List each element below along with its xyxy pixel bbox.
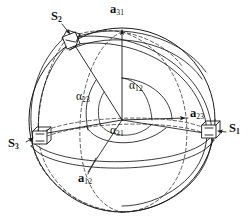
joint-s3-name: S: [8, 136, 15, 150]
angle-alpha23-subscript: 23: [82, 95, 90, 104]
joint-s3-subscript: 3: [15, 142, 19, 151]
angle-label-alpha23: α23: [76, 91, 90, 104]
angle-alpha31-subscript: 31: [116, 129, 124, 138]
joint-s2-name: S: [51, 9, 58, 23]
angle-label-alpha31: α31: [110, 125, 124, 138]
angle-label-alpha12: α12: [129, 80, 143, 93]
joint-label-s1: S1: [229, 122, 240, 136]
vector-a23-subscript: 23: [196, 112, 204, 121]
joint-s1-subscript: 1: [236, 127, 240, 136]
vector-label-a12: a12: [78, 172, 92, 186]
angle-alpha12-subscript: 12: [135, 84, 143, 93]
vector-a12-subscript: 12: [84, 177, 92, 186]
joint-label-s2: S2: [51, 10, 62, 24]
vector-a31-subscript: 31: [116, 8, 124, 17]
angle-arc-alpha31: [86, 124, 166, 143]
joint-s1-name: S: [229, 121, 236, 135]
spherical-mechanism-figure: S1 S2 S3 a12 a23 a31 α12 α23 α31: [0, 0, 249, 223]
radius-to-s1: [122, 120, 210, 134]
joint-label-s3: S3: [8, 137, 19, 151]
figure-drawing: [0, 0, 249, 223]
joint-s2-subscript: 2: [58, 15, 62, 24]
vector-label-a31: a31: [110, 3, 124, 17]
vector-label-a23: a23: [190, 107, 204, 121]
